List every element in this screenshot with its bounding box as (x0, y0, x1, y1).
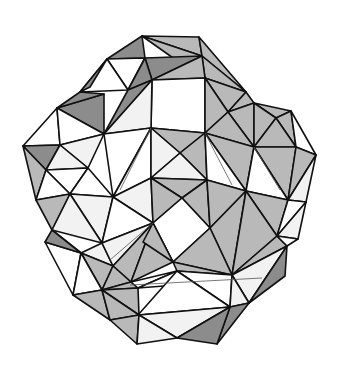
polyhedron-face (107, 36, 145, 59)
polyhedron-faces (23, 36, 316, 344)
polyhedron-figure (0, 0, 338, 378)
polyhedron-face (151, 78, 205, 133)
polyhedron-face (23, 108, 60, 146)
figure-canvas (0, 0, 338, 378)
polyhedron-face (110, 315, 139, 344)
